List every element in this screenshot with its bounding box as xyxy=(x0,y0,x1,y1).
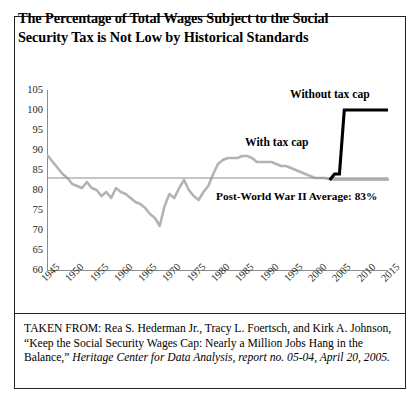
annotation-with-tax-cap: With tax cap xyxy=(245,136,309,149)
source-authors: Rea S. Hederman Jr., Tracy L. Foertsch, … xyxy=(104,322,391,335)
source-citation: TAKEN FROM: Rea S. Hederman Jr., Tracy L… xyxy=(24,322,398,366)
source-date: , April 20, 2005. xyxy=(314,351,390,364)
annotation-without-tax-cap: Without tax cap xyxy=(290,88,370,101)
figure-page: The Percentage of Total Wages Subject to… xyxy=(0,0,417,393)
annotation-postwar-average: Post-World War II Average: 83% xyxy=(216,190,377,203)
source-prefix: TAKEN FROM: xyxy=(24,322,101,335)
source-publication: Heritage Center for Data Analysis, repor… xyxy=(72,351,314,364)
series-without-tax-cap xyxy=(330,110,388,180)
